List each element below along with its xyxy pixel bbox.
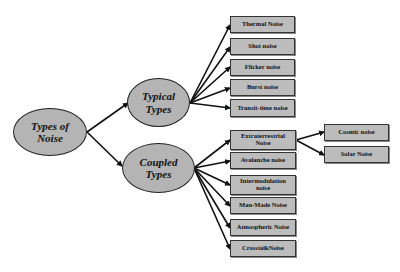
root-node-types-of-noise: Types of Noise [13,108,87,156]
box-label: Transit-time noise [237,105,287,112]
box-flicker-noise: Flicker noise [230,59,295,76]
box-label: Flicker noise [245,64,280,71]
typical-label-line1: Typical [142,90,175,102]
root-label-line1: Types of [31,120,69,132]
box-shot-noise: Shot noise [230,38,295,55]
box-thermal-noise: Thermal Noise [230,16,295,33]
box-extraterrestrial-noise: ExtraterrestrialNoise [230,130,296,150]
typical-label-line2: Types [146,103,172,115]
box-label: Thermal Noise [242,21,283,28]
box-avalanche-noise: Avalanche noise [230,152,296,169]
box-label-line2: noise [256,184,270,191]
box-label: Solar Noise [341,151,372,158]
root-label-line2: Noise [37,132,63,144]
box-atmospheric-noise: Atmospheric Noise [230,219,296,236]
box-label: Man-Made Noise [239,202,287,209]
box-man-made-noise: Man-Made Noise [230,197,296,214]
box-label: Avalanche noise [241,157,285,164]
box-cosmic-noise: Cosmic noise [324,124,389,141]
box-label: Burst noise [247,84,278,91]
coupled-label-line2: Types [146,168,172,180]
box-transit-time-noise: Transit-time noise [230,99,295,117]
box-crosstalk-noise: CrosstalkNoise [230,240,296,257]
box-intermodulation-noise: Intermodulationnoise [230,175,296,195]
box-label: CrosstalkNoise [242,245,284,252]
box-burst-noise: Burst noise [230,79,295,96]
node-coupled-types: Coupled Types [122,143,195,193]
box-label: Shot noise [248,43,276,50]
box-solar-noise: Solar Noise [324,146,389,163]
box-label: Atmospheric Noise [237,224,290,231]
coupled-label-line1: Coupled [140,156,178,168]
box-label-line2: Noise [255,139,270,146]
node-typical-types: Typical Types [127,78,190,127]
box-label: Cosmic noise [338,129,374,136]
